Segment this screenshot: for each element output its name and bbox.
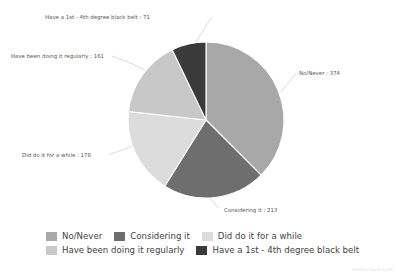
legend-item-did-do-it-for-a-while[interactable]: Did do it for a while [202, 231, 302, 242]
legend-swatch-icon-considering-it [114, 232, 125, 241]
legend-label-did-do-it-for-a-while: Did do it for a while [218, 231, 302, 242]
legend-item-no-never[interactable]: No/Never [46, 231, 102, 242]
pie-slices [128, 42, 284, 198]
chart-legend: No/Never Considering it Did do it for a … [46, 229, 352, 257]
legend-item-have-been-doing-it-regularly[interactable]: Have been doing it regularly [46, 245, 184, 256]
leader-line-did-do-it [110, 146, 132, 154]
legend-label-have-been-doing-it-regularly: Have been doing it regularly [62, 245, 184, 256]
legend-row-2: Have been doing it regularly Have a 1st … [46, 243, 352, 257]
leader-line-black-belt [196, 17, 212, 42]
legend-swatch-icon-did-do-it-for-a-while [202, 232, 213, 241]
leader-line-considering [210, 198, 219, 208]
legend-swatch-icon-black-belt [196, 246, 207, 255]
legend-label-no-never: No/Never [62, 231, 102, 242]
legend-item-considering-it[interactable]: Considering it [114, 231, 190, 242]
legend-label-black-belt: Have a 1st - 4th degree black belt [212, 245, 359, 256]
slice-label-considering: Considering it : 213 [224, 207, 277, 214]
watermark: meta-chart.com [352, 267, 393, 272]
pie-chart-container: Have a 1st - 4th degree black belt : 71 … [0, 0, 397, 275]
leader-line-no-never [281, 73, 296, 92]
slice-label-no-never: No/Never : 374 [299, 70, 341, 76]
legend-item-black-belt[interactable]: Have a 1st - 4th degree black belt [196, 245, 359, 256]
slice-label-regularly: Have been doing it regularly : 161 [11, 53, 104, 60]
legend-label-considering-it: Considering it [130, 231, 190, 242]
leader-line-regularly [112, 56, 145, 70]
slice-label-did-do-it: Did do it for a while : 178 [22, 152, 91, 158]
slice-label-black-belt: Have a 1st - 4th degree black belt : 71 [45, 14, 150, 21]
legend-row-1: No/Never Considering it Did do it for a … [46, 229, 352, 243]
legend-swatch-icon-have-been-doing-it-regularly [46, 246, 57, 255]
legend-swatch-icon-no-never [46, 232, 57, 241]
